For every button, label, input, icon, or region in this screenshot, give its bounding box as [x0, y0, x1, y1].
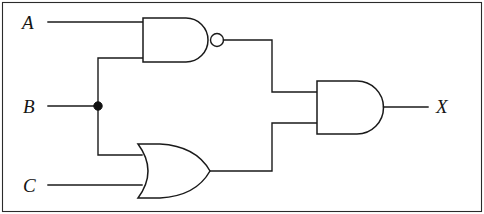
nand-gate-body	[143, 18, 208, 62]
or-gate-body	[138, 144, 210, 198]
logic-circuit-diagram: A B C X	[0, 0, 484, 214]
circuit-canvas	[0, 0, 484, 214]
input-label-a: A	[22, 13, 34, 32]
nand-inversion-bubble-icon	[211, 34, 224, 47]
input-label-b: B	[23, 97, 35, 116]
wire-b-to-or	[98, 106, 142, 155]
b-junction-dot-icon	[94, 102, 102, 110]
wire-nand-to-and	[224, 40, 318, 92]
output-label-x: X	[436, 97, 448, 116]
and-gate-body	[317, 81, 384, 134]
wire-b-to-nand	[98, 58, 143, 106]
input-label-c: C	[23, 176, 36, 195]
wire-or-to-and	[210, 123, 317, 171]
